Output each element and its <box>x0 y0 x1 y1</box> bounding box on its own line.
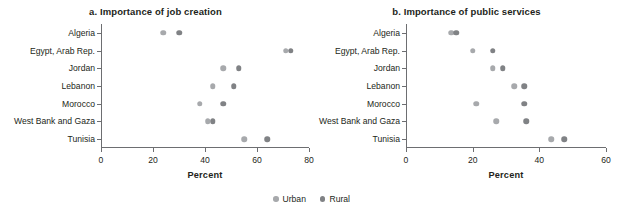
data-point-rural <box>522 101 528 107</box>
y-axis-line <box>406 24 407 148</box>
y-axis-label-west-bank-and-gaza: West Bank and Gaza <box>14 116 95 126</box>
x-axis-tick-label: 60 <box>601 155 611 165</box>
legend-item-rural: Rural <box>320 194 350 204</box>
data-point-rural <box>176 30 182 36</box>
data-point-urban <box>490 66 496 72</box>
y-axis-tick <box>402 104 406 105</box>
y-axis-label-lebanon: Lebanon <box>367 81 400 91</box>
data-point-rural <box>210 119 216 125</box>
y-axis-label-egypt-arab-rep: Egypt, Arab Rep. <box>335 46 400 56</box>
y-axis-tick <box>97 68 101 69</box>
data-point-rural <box>523 119 529 125</box>
y-axis-label-egypt-arab-rep: Egypt, Arab Rep. <box>30 46 95 56</box>
x-axis-tick-label: 40 <box>200 155 210 165</box>
x-axis-tick-label: 0 <box>99 155 104 165</box>
y-axis-tick <box>402 139 406 140</box>
x-axis-tick <box>257 148 258 152</box>
y-axis-label-lebanon: Lebanon <box>62 81 95 91</box>
data-point-urban <box>161 30 167 36</box>
y-axis-label-jordan: Jordan <box>69 63 95 73</box>
y-axis-tick <box>402 86 406 87</box>
y-axis-tick <box>97 86 101 87</box>
data-point-rural <box>562 136 568 142</box>
y-axis-label-morocco: Morocco <box>367 99 400 109</box>
y-axis-tick <box>97 121 101 122</box>
legend-label-rural: Rural <box>329 194 350 204</box>
y-axis-tick <box>402 51 406 52</box>
data-point-urban <box>512 83 518 89</box>
y-axis-tick <box>97 51 101 52</box>
data-point-urban <box>493 119 499 125</box>
x-axis-tick-label: 40 <box>535 155 545 165</box>
y-axis-tick <box>97 33 101 34</box>
x-axis-tick <box>153 148 154 152</box>
x-axis-tick-label: 20 <box>148 155 158 165</box>
panel-job-creation: a. Importance of job creation Percent Al… <box>0 0 311 180</box>
y-axis-label-algeria: Algeria <box>68 28 95 38</box>
legend: Urban Rural <box>0 194 623 204</box>
panel-public-services: b. Importance of public services Percent… <box>311 0 622 180</box>
figure: a. Importance of job creation Percent Al… <box>0 0 623 210</box>
data-point-urban <box>197 101 203 107</box>
y-axis-label-algeria: Algeria <box>373 28 400 38</box>
legend-swatch-urban-icon <box>273 196 279 202</box>
data-point-urban <box>470 48 476 54</box>
panel-a-x-axis-title: Percent <box>101 170 309 180</box>
x-axis-tick <box>101 148 102 152</box>
x-axis-tick-label: 60 <box>252 155 262 165</box>
y-axis-label-tunisia: Tunisia <box>68 134 95 144</box>
data-point-urban <box>220 66 226 72</box>
y-axis-tick <box>402 121 406 122</box>
data-point-rural <box>490 48 496 54</box>
x-axis-tick <box>406 148 407 152</box>
data-point-rural <box>265 136 271 142</box>
y-axis-label-jordan: Jordan <box>374 63 400 73</box>
data-point-urban <box>548 136 554 142</box>
x-axis-tick-label: 0 <box>404 155 409 165</box>
data-point-rural <box>231 83 237 89</box>
x-axis-line <box>406 147 606 148</box>
data-point-urban <box>473 101 479 107</box>
x-axis-tick-label: 20 <box>468 155 478 165</box>
y-axis-line <box>101 24 102 148</box>
y-axis-tick <box>402 33 406 34</box>
y-axis-label-tunisia: Tunisia <box>373 134 400 144</box>
panel-b-x-axis-title: Percent <box>406 170 606 180</box>
y-axis-tick <box>402 68 406 69</box>
legend-swatch-rural-icon <box>320 196 326 202</box>
panel-a-title: a. Importance of job creation <box>0 6 311 17</box>
legend-label-urban: Urban <box>283 194 306 204</box>
y-axis-label-morocco: Morocco <box>62 99 95 109</box>
x-axis-tick <box>539 148 540 152</box>
y-axis-label-west-bank-and-gaza: West Bank and Gaza <box>319 116 400 126</box>
data-point-rural <box>220 101 226 107</box>
panel-b-title: b. Importance of public services <box>311 6 622 17</box>
panel-b-plot: Percent AlgeriaEgypt, Arab Rep.JordanLeb… <box>406 24 606 148</box>
data-point-rural <box>288 48 294 54</box>
y-axis-tick <box>97 104 101 105</box>
data-point-urban <box>210 83 216 89</box>
data-point-rural <box>522 83 528 89</box>
data-point-rural <box>500 66 506 72</box>
data-point-urban <box>241 136 247 142</box>
data-point-rural <box>236 66 242 72</box>
x-axis-tick <box>473 148 474 152</box>
y-axis-tick <box>97 139 101 140</box>
x-axis-tick <box>309 148 310 152</box>
x-axis-tick <box>205 148 206 152</box>
legend-item-urban: Urban <box>273 194 306 204</box>
panel-a-plot: Percent AlgeriaEgypt, Arab Rep.JordanLeb… <box>101 24 309 148</box>
data-point-rural <box>453 30 459 36</box>
x-axis-tick <box>606 148 607 152</box>
